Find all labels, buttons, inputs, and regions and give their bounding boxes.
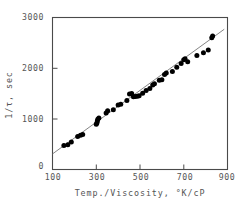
x-tick-label-300: 300 xyxy=(89,172,106,182)
y-tick-label-1000: 1000 xyxy=(22,114,44,124)
data-point xyxy=(159,77,164,82)
scatter-plot-figure: 3000 2000 1000 0 100 300 500 700 900 Tem… xyxy=(0,0,250,205)
x-axis-label: Temp./Viscosity, °K/cP xyxy=(75,188,206,198)
data-point xyxy=(194,53,199,58)
data-point xyxy=(152,81,157,86)
data-point xyxy=(174,65,179,70)
data-point xyxy=(105,108,110,113)
x-tick-label-700: 700 xyxy=(177,172,194,182)
y-tick-label-3000: 3000 xyxy=(22,12,44,22)
data-point xyxy=(111,107,116,112)
y-axis-tick-labels: 3000 2000 1000 0 xyxy=(22,12,44,171)
data-point xyxy=(206,48,211,53)
x-axis-tick-labels: 100 300 500 700 900 xyxy=(45,172,236,182)
y-tick-label-2000: 2000 xyxy=(22,63,44,73)
y-axis-label: 1/τ, sec xyxy=(4,71,14,119)
data-point xyxy=(80,132,85,137)
x-tick-label-500: 500 xyxy=(133,172,150,182)
data-point xyxy=(118,102,123,107)
data-point xyxy=(96,115,101,120)
data-point xyxy=(124,98,129,103)
data-point xyxy=(164,70,169,75)
x-axis-ticks xyxy=(53,165,228,170)
x-tick-label-900: 900 xyxy=(219,172,236,182)
y-axis-ticks xyxy=(53,18,58,170)
x-tick-label-100: 100 xyxy=(45,172,62,182)
chart-canvas: 3000 2000 1000 0 100 300 500 700 900 Tem… xyxy=(0,0,250,205)
plot-area xyxy=(53,18,228,170)
data-point xyxy=(69,139,74,144)
data-point xyxy=(201,50,206,55)
y-tick-label-0: 0 xyxy=(38,161,44,171)
data-point xyxy=(185,59,190,64)
data-point xyxy=(170,69,175,74)
data-point xyxy=(210,33,215,38)
